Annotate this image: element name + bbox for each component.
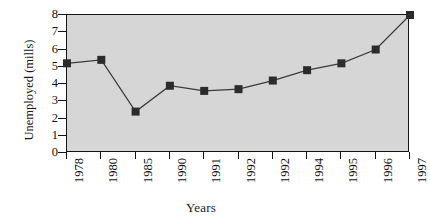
x-axis-tick-label: 1996 bbox=[381, 158, 395, 204]
x-axis-tick-label: 1991 bbox=[209, 158, 223, 204]
series-line bbox=[67, 15, 410, 112]
data-point-marker bbox=[132, 108, 140, 116]
x-axis-tick-label: 1995 bbox=[346, 158, 360, 204]
x-axis-tick-mark bbox=[409, 152, 410, 159]
x-axis-tick-label: 1978 bbox=[72, 158, 86, 204]
x-axis-tick-label: 1994 bbox=[312, 158, 326, 204]
data-point-marker bbox=[406, 11, 414, 19]
plot-area bbox=[66, 14, 409, 152]
data-point-marker bbox=[235, 85, 243, 93]
data-point-marker bbox=[269, 77, 277, 85]
data-point-marker bbox=[303, 66, 311, 74]
data-point-marker bbox=[63, 59, 71, 67]
x-axis-tick-mark bbox=[306, 152, 307, 159]
x-axis-tick-label: 1992 bbox=[278, 158, 292, 204]
x-axis-tick-mark bbox=[272, 152, 273, 159]
y-axis-tick-label: 0 bbox=[36, 146, 58, 158]
x-axis-tick-label: 1992 bbox=[244, 158, 258, 204]
x-axis-title: Years bbox=[186, 200, 216, 216]
x-axis-tick-label: 1990 bbox=[175, 158, 189, 204]
data-point-marker bbox=[372, 46, 380, 54]
y-axis-tick-label: 4 bbox=[36, 77, 58, 89]
y-axis-tick-label: 6 bbox=[36, 43, 58, 55]
y-axis-tick-label: 8 bbox=[36, 8, 58, 20]
y-axis-tick-label: 5 bbox=[36, 60, 58, 72]
data-series-line bbox=[66, 14, 411, 154]
x-axis-tick-mark bbox=[100, 152, 101, 159]
x-axis-tick-mark bbox=[135, 152, 136, 159]
data-point-marker bbox=[166, 82, 174, 90]
y-axis-tick-label: 3 bbox=[36, 94, 58, 106]
x-axis-tick-label: 1997 bbox=[415, 158, 429, 204]
x-axis-tick-label: 1980 bbox=[106, 158, 120, 204]
data-point-marker bbox=[337, 59, 345, 67]
x-axis-tick-mark bbox=[340, 152, 341, 159]
data-point-marker bbox=[97, 56, 105, 64]
y-axis-tick-label: 2 bbox=[36, 112, 58, 124]
x-axis-tick-mark bbox=[169, 152, 170, 159]
y-axis-tick-labels: 012345678 bbox=[36, 0, 58, 224]
y-axis-tick-label: 7 bbox=[36, 25, 58, 37]
data-point-marker bbox=[200, 87, 208, 95]
y-axis-tick-label: 1 bbox=[36, 129, 58, 141]
unemployment-line-chart: Unemployed (mills) 012345678 19781980198… bbox=[0, 0, 430, 224]
x-axis-tick-mark bbox=[375, 152, 376, 159]
x-axis-tick-mark bbox=[238, 152, 239, 159]
x-axis-tick-mark bbox=[203, 152, 204, 159]
x-axis-tick-mark bbox=[66, 152, 67, 159]
x-axis-tick-label: 1985 bbox=[141, 158, 155, 204]
